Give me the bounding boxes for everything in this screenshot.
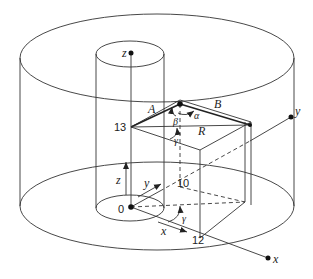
diagram: z y x A B R xyxy=(0,0,313,279)
x-arrow-label: x xyxy=(160,224,167,238)
z-axis-label: z xyxy=(121,46,127,60)
y-axis-label: y xyxy=(294,104,301,118)
angles: α β γ γ xyxy=(168,107,200,224)
y-axis: y xyxy=(131,104,301,207)
gamma-top-label: γ xyxy=(174,135,179,146)
origin-label: 0 xyxy=(118,203,124,215)
vector-b-label: B xyxy=(214,97,222,111)
alpha-label: α xyxy=(194,110,200,121)
vector-a-label: A xyxy=(147,102,156,116)
y-arrow-label: y xyxy=(143,176,150,190)
tick-labels: 0 13 10 12 xyxy=(114,121,204,246)
z-arrow-label: z xyxy=(115,173,121,187)
x-12-label: 12 xyxy=(192,234,204,246)
vector-r-label: R xyxy=(197,124,206,138)
x-axis-label: x xyxy=(272,252,279,266)
geometry-figure: z y x A B R xyxy=(0,0,313,279)
y-10-label: 10 xyxy=(177,177,189,189)
height-13-label: 13 xyxy=(114,121,126,133)
beta-label: β xyxy=(172,116,178,127)
gamma-bottom-label: γ xyxy=(182,213,187,224)
unit-arrows: z y x xyxy=(115,162,187,238)
outer-cylinder xyxy=(20,14,294,250)
